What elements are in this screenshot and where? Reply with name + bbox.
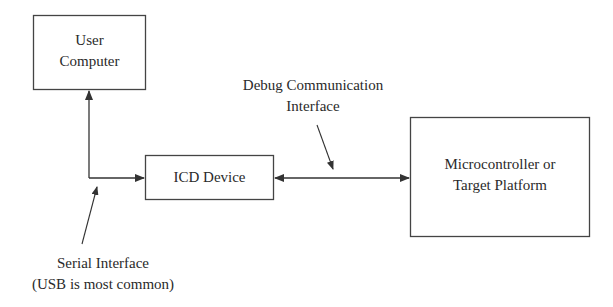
- debug-annotation-line-2: Interface: [223, 96, 403, 117]
- user-computer-line-1: User: [33, 30, 146, 51]
- debug-interface-annotation: Debug Communication Interface: [223, 75, 403, 117]
- target-label: Microcontroller or Target Platform: [410, 154, 590, 196]
- serial-annotation-line-1: Serial Interface: [13, 253, 193, 274]
- icd-device-label: ICD Device: [145, 167, 274, 188]
- debug-pointer: [317, 125, 333, 169]
- debug-annotation-line-1: Debug Communication: [223, 75, 403, 96]
- user-computer-label: User Computer: [33, 30, 146, 72]
- user-computer-line-2: Computer: [33, 51, 146, 72]
- serial-pointer: [82, 187, 97, 244]
- target-line-1: Microcontroller or: [410, 154, 590, 175]
- serial-interface-annotation: Serial Interface (USB is most common): [13, 253, 193, 295]
- serial-annotation-line-2: (USB is most common): [13, 274, 193, 295]
- icd-device-line-1: ICD Device: [145, 167, 274, 188]
- target-line-2: Target Platform: [410, 175, 590, 196]
